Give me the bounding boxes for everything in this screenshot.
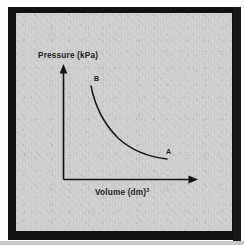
scanned-figure-page: Pressure (kPa) Volume (dm)3 B A (0, 0, 244, 245)
x-axis-label-superscript: 3 (146, 187, 149, 193)
page-left-margin-strip (0, 0, 8, 241)
point-label-b: B (94, 75, 99, 82)
pressure-volume-curve (91, 86, 167, 159)
point-label-a: A (166, 148, 171, 155)
page-bottom-strip (0, 241, 244, 245)
x-axis-label-base: Volume (dm) (95, 188, 146, 197)
pressure-volume-graph: Pressure (kPa) Volume (dm)3 B A (0, 0, 244, 245)
y-axis-arrowhead (60, 64, 68, 74)
y-axis-label: Pressure (kPa) (38, 51, 98, 60)
x-axis-arrowhead (189, 176, 199, 184)
x-axis-label: Volume (dm)3 (95, 187, 149, 197)
